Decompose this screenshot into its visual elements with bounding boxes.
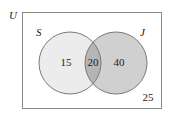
universe-label: U [9, 9, 18, 21]
venn-diagram: U S J 15 20 40 25 [0, 0, 171, 113]
set-s-only-value: 15 [61, 56, 73, 68]
outside-value: 25 [143, 91, 155, 103]
set-j-only-value: 40 [114, 56, 126, 68]
set-s-label: S [36, 26, 42, 38]
intersection-value: 20 [88, 56, 100, 68]
